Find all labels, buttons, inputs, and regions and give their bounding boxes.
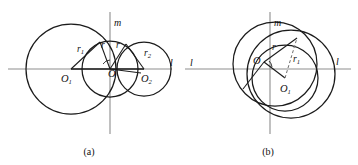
panel-b-segment-o-o1 — [264, 62, 285, 78]
panel-a-label-o1: O1 — [61, 73, 72, 85]
panel-a-segment-r1 — [71, 42, 100, 69]
panel-b-label-r: r — [272, 42, 276, 52]
panel-b-label-l-left: l — [190, 57, 193, 68]
panel-a-label-r2: r2 — [144, 48, 152, 59]
panel-b-caption: (b) — [262, 146, 274, 158]
panel-b-circle-outer — [247, 30, 335, 118]
panel-b-circle-large — [233, 22, 317, 106]
panel-b-label-l-right: l — [336, 56, 339, 67]
panel-a-label-r-right: r — [116, 40, 120, 50]
panel-a-label-l: l — [170, 57, 173, 68]
panel-a-label-r-left: r — [101, 40, 105, 50]
panel-b-label-r1: r1 — [293, 54, 300, 65]
panel-a-label-o: O — [108, 68, 116, 79]
panel-a-label-m: m — [114, 17, 121, 28]
panel-a-caption: (a) — [83, 146, 94, 158]
figure-root: m l O1 O2 O r1 r2 r r (a) m l — [0, 0, 358, 165]
panel-b-label-o1: O1 — [280, 83, 291, 95]
panel-a-label-o2: O2 — [141, 73, 153, 85]
panel-b-label-m: m — [274, 17, 281, 28]
panel-a-angle-arc — [103, 60, 110, 64]
panel-a-label-r1: r1 — [77, 44, 84, 55]
panel-b: m l l O O1 r r1 (b) — [179, 0, 358, 165]
panel-a-segment-r2 — [126, 44, 144, 69]
panel-a: m l O1 O2 O r1 r2 r r (a) — [0, 0, 179, 165]
panel-b-segment-chord — [243, 62, 264, 89]
panel-b-label-o: O — [253, 55, 261, 66]
